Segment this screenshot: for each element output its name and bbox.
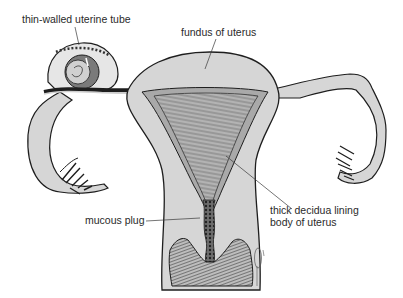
label-decidua-line1: thick decidua lining — [270, 204, 359, 216]
uterus-anatomy-diagram — [0, 0, 403, 298]
label-thick-decidua-lining: thick decidua lining body of uterus — [270, 204, 359, 228]
label-thin-walled-uterine-tube: thin-walled uterine tube — [22, 13, 131, 25]
label-mucous-plug: mucous plug — [85, 214, 145, 226]
ectopic-embryo-sac — [48, 43, 118, 90]
leader-line-tube — [75, 27, 79, 45]
uterus-body — [127, 52, 279, 290]
label-decidua-line2: body of uterus — [270, 216, 359, 228]
label-fundus-of-uterus: fundus of uterus — [181, 26, 256, 38]
left-uterine-tube — [28, 92, 108, 194]
right-uterine-tube — [268, 74, 386, 183]
